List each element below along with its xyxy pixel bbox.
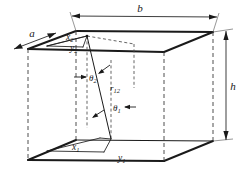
figure-container: b a h x2 y2 θ2 r12 θ1 x1 y1	[0, 0, 244, 178]
label-angle-theta1: θ1	[113, 103, 121, 114]
dim-b-arrowhead-left	[72, 13, 80, 18]
dim-h-arrowhead-top	[223, 31, 228, 40]
dim-h-arrowhead-bottom	[223, 131, 228, 140]
label-point-x2: x2	[65, 32, 74, 43]
top-face-projection-dashed	[87, 36, 134, 44]
dim-a-arrowhead-upper	[47, 33, 56, 38]
label-distance-r12: r12	[110, 83, 121, 94]
dim-h-extension-bottom	[213, 139, 233, 141]
angle-theta2-arrow-left-head	[81, 75, 87, 79]
bottom-face-rear-edge	[76, 140, 213, 141]
bottom-face-right-edge	[164, 141, 213, 161]
label-dimension-b: b	[137, 2, 143, 14]
label-dimension-h: h	[230, 80, 236, 92]
top-face-y2-base-line	[47, 46, 83, 47]
enclosure-geometry-diagram: b a h x2 y2 θ2 r12 θ1 x1 y1	[0, 0, 244, 178]
bottom-face-y1-riser-line	[104, 139, 111, 152]
dim-a-arrowhead-lower	[14, 44, 23, 49]
dim-b-extension-right	[213, 13, 219, 32]
dim-b-arrowhead-right	[209, 14, 217, 19]
top-face-y2-riser-line	[83, 36, 87, 47]
top-face-right-edge	[164, 32, 213, 52]
label-dimension-a: a	[29, 27, 35, 39]
label-point-y1: y1	[117, 153, 125, 164]
dim-h-extension-top	[213, 29, 233, 32]
dim-b-line	[72, 16, 217, 17]
top-face-front-edge	[28, 49, 164, 52]
top-face-rear-edge	[76, 31, 213, 32]
angle-theta1-arrow-right-head	[124, 105, 130, 109]
bottom-face-x1-end-line	[100, 138, 111, 139]
point-marker-p2	[86, 35, 89, 38]
label-point-y2: y2	[69, 43, 78, 54]
bottom-face-front-edge	[28, 160, 164, 161]
dim-b-extension-left	[70, 12, 76, 31]
